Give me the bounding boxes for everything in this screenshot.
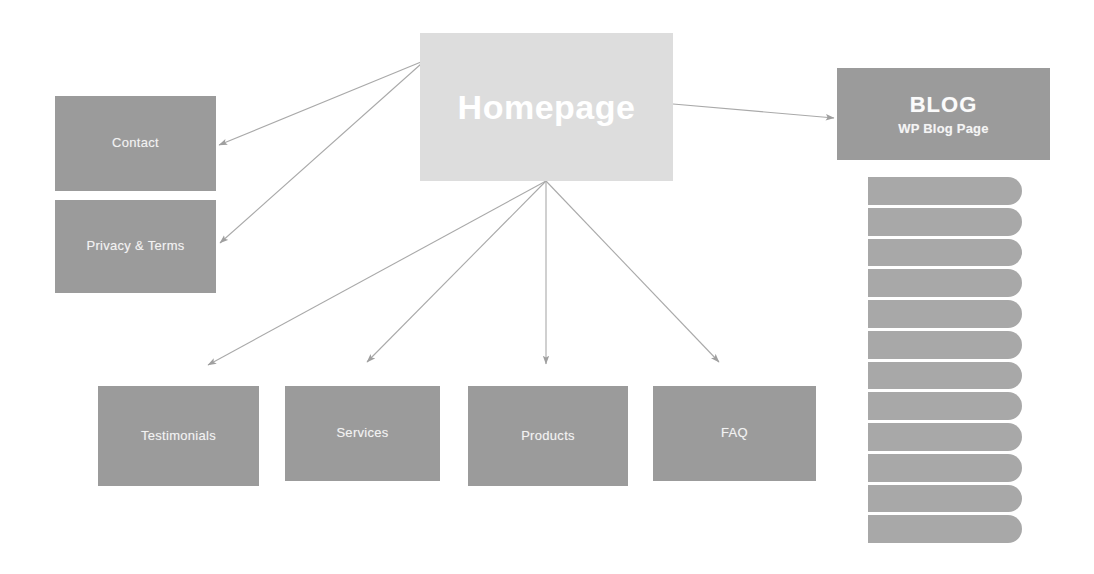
- node-privacy-terms-label: Privacy & Terms: [86, 238, 184, 254]
- blog-post-item[interactable]: [868, 269, 1022, 297]
- blog-post-item[interactable]: [868, 515, 1022, 543]
- node-homepage[interactable]: Homepage: [420, 33, 673, 181]
- node-blog-subtitle: WP Blog Page: [898, 121, 988, 137]
- node-testimonials[interactable]: Testimonials: [98, 386, 259, 486]
- node-testimonials-label: Testimonials: [141, 428, 216, 444]
- blog-post-item[interactable]: [868, 331, 1022, 359]
- node-faq-label: FAQ: [721, 425, 748, 441]
- blog-post-item[interactable]: [868, 239, 1022, 267]
- blog-post-item[interactable]: [868, 208, 1022, 236]
- node-products-label: Products: [521, 428, 575, 444]
- blog-post-item[interactable]: [868, 300, 1022, 328]
- connector-homepage-blog: [673, 104, 834, 118]
- connector-homepage-privacy: [220, 64, 421, 243]
- node-blog[interactable]: BLOG WP Blog Page: [837, 68, 1050, 160]
- node-services-label: Services: [336, 425, 388, 441]
- connector-homepage-faq: [546, 181, 719, 362]
- node-privacy-terms[interactable]: Privacy & Terms: [55, 200, 216, 293]
- node-faq[interactable]: FAQ: [653, 386, 816, 481]
- sitemap-diagram: Homepage Contact Privacy & Terms BLOG WP…: [0, 0, 1094, 574]
- connector-homepage-contact: [219, 62, 421, 145]
- blog-post-item[interactable]: [868, 392, 1022, 420]
- node-homepage-label: Homepage: [458, 86, 636, 129]
- blog-post-item[interactable]: [868, 485, 1022, 513]
- blog-post-item[interactable]: [868, 454, 1022, 482]
- connector-homepage-testimonials: [208, 181, 546, 365]
- node-contact[interactable]: Contact: [55, 96, 216, 191]
- node-services[interactable]: Services: [285, 386, 440, 481]
- blog-post-item[interactable]: [868, 177, 1022, 205]
- blog-post-item[interactable]: [868, 362, 1022, 390]
- node-contact-label: Contact: [112, 135, 159, 151]
- connector-homepage-services: [367, 181, 546, 362]
- node-blog-title: BLOG: [910, 91, 978, 119]
- node-products[interactable]: Products: [468, 386, 628, 486]
- blog-post-item[interactable]: [868, 423, 1022, 451]
